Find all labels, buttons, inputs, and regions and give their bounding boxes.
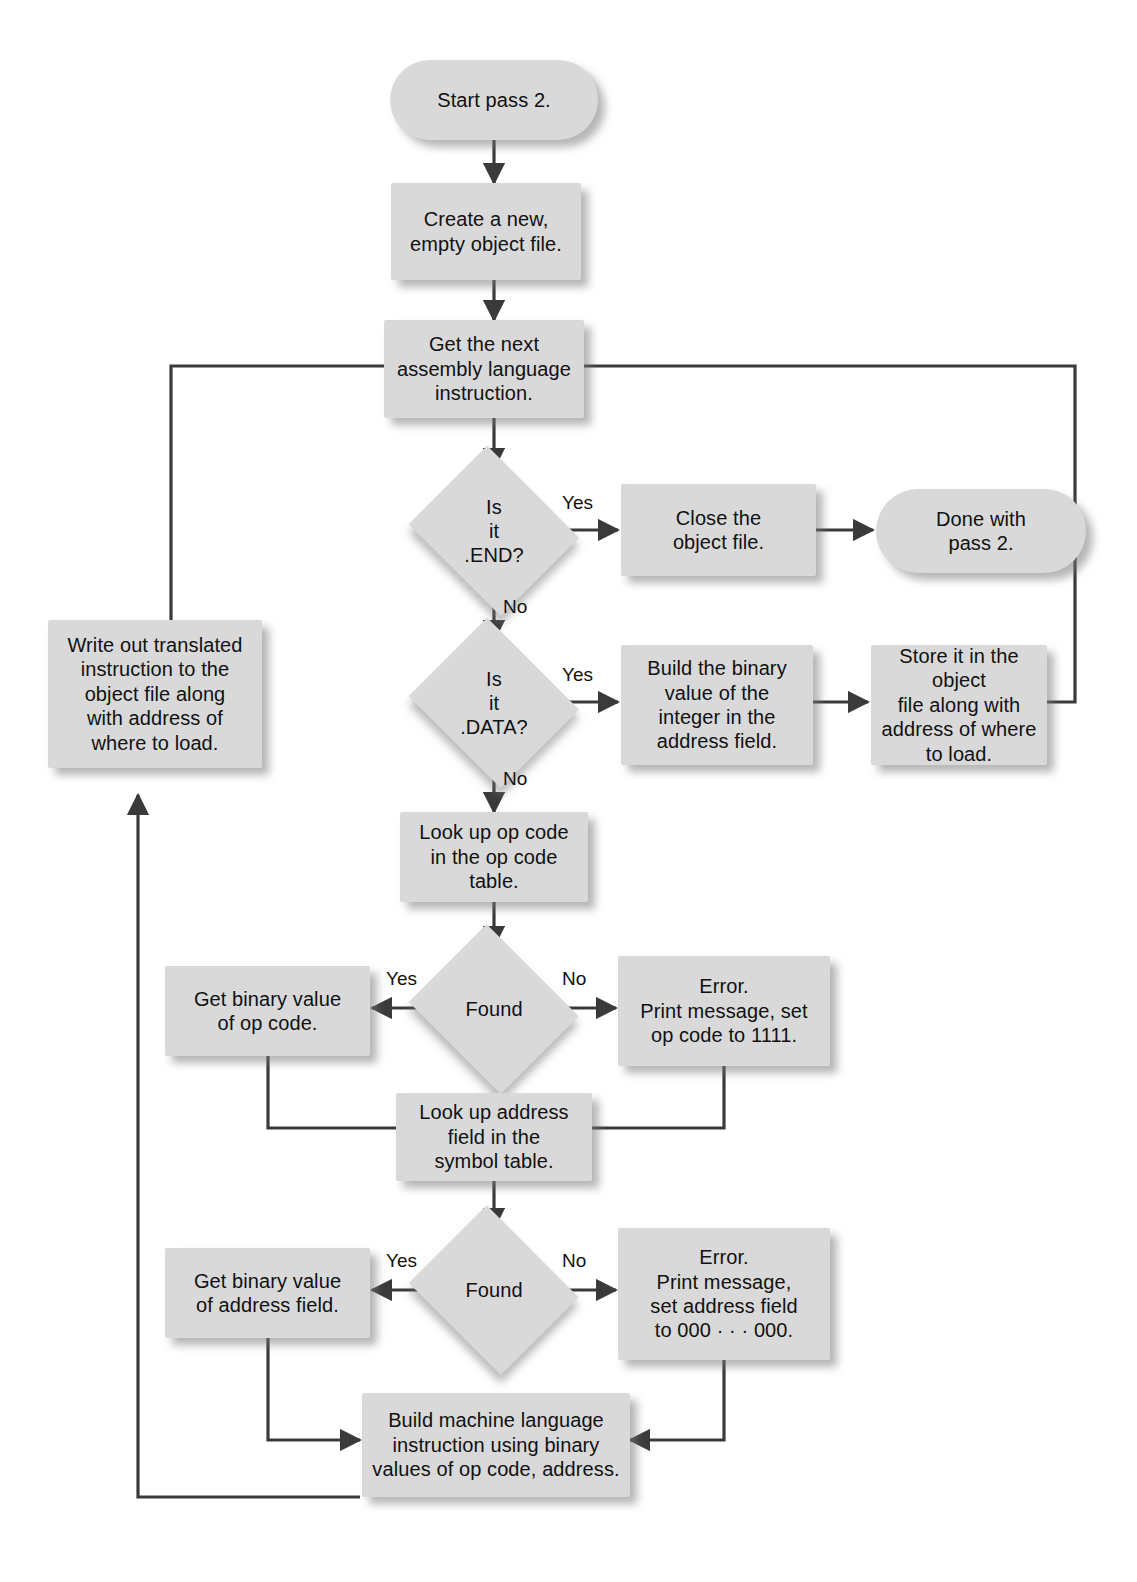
- node-label: Is it .END?: [464, 495, 523, 567]
- node-get-binary-value-op-code: Get binary value of op code.: [165, 966, 370, 1056]
- node-found-address-decision: Found: [406, 1216, 582, 1364]
- node-close-object-file: Close the object file.: [621, 484, 816, 576]
- node-start-pass-2: Start pass 2.: [390, 60, 598, 140]
- flowchart-canvas: Start pass 2. Create a new, empty object…: [0, 0, 1137, 1582]
- node-lookup-address-field: Look up address field in the symbol tabl…: [396, 1093, 592, 1181]
- node-store-in-object-file: Store it in the object file along with a…: [871, 645, 1047, 765]
- node-is-end-decision: Is it .END?: [406, 456, 582, 606]
- node-label: Get binary value of op code.: [194, 987, 341, 1036]
- node-get-binary-value-address: Get binary value of address field.: [165, 1248, 370, 1338]
- node-label: Get the next assembly language instructi…: [397, 332, 571, 405]
- node-label: Get binary value of address field.: [194, 1269, 341, 1318]
- edge-label-found-op-yes: Yes: [386, 968, 417, 990]
- node-label: Build the binary value of the integer in…: [647, 656, 786, 754]
- node-label: Look up address field in the symbol tabl…: [419, 1100, 568, 1173]
- node-label: Build machine language instruction using…: [372, 1408, 619, 1481]
- node-label: Found: [465, 997, 522, 1021]
- node-done-with-pass-2: Done with pass 2.: [876, 489, 1086, 573]
- node-build-machine-language: Build machine language instruction using…: [362, 1393, 630, 1497]
- node-write-out-translated: Write out translated instruction to the …: [48, 620, 262, 768]
- node-get-next-instruction: Get the next assembly language instructi…: [384, 320, 584, 418]
- edge-erroraddr-to-buildmachine: [630, 1360, 724, 1440]
- node-label: Store it in the object file along with a…: [877, 644, 1041, 766]
- edge-getaddr-to-buildmachine: [268, 1338, 360, 1440]
- node-found-op-code-decision: Found: [406, 935, 582, 1083]
- edge-label-found-op-no: No: [562, 968, 586, 990]
- edge-label-data-yes: Yes: [562, 664, 593, 686]
- node-label: Write out translated instruction to the …: [67, 633, 242, 755]
- node-label: Error. Print message, set op code to 111…: [640, 974, 807, 1047]
- node-lookup-op-code: Look up op code in the op code table.: [400, 812, 588, 902]
- node-label: Create a new, empty object file.: [410, 207, 562, 256]
- node-label: Found: [465, 1278, 522, 1302]
- edge-buildmachine-to-writeout: [138, 795, 360, 1497]
- edge-label-end-yes: Yes: [562, 492, 593, 514]
- node-label: Error. Print message, set address field …: [650, 1245, 797, 1343]
- edge-label-found-addr-yes: Yes: [386, 1250, 417, 1272]
- node-label: Close the object file.: [673, 506, 764, 555]
- node-label: Is it .DATA?: [460, 667, 528, 739]
- node-error-op-code: Error. Print message, set op code to 111…: [618, 956, 830, 1066]
- node-label: Start pass 2.: [437, 88, 551, 112]
- node-build-binary-value: Build the binary value of the integer in…: [621, 645, 813, 765]
- node-label: Look up op code in the op code table.: [419, 820, 568, 893]
- edge-label-data-no: No: [503, 768, 527, 790]
- node-label: Done with pass 2.: [936, 507, 1026, 556]
- node-error-address-field: Error. Print message, set address field …: [618, 1228, 830, 1360]
- node-create-object-file: Create a new, empty object file.: [391, 183, 581, 280]
- node-is-data-decision: Is it .DATA?: [406, 628, 582, 778]
- edge-label-end-no: No: [503, 596, 527, 618]
- edge-label-found-addr-no: No: [562, 1250, 586, 1272]
